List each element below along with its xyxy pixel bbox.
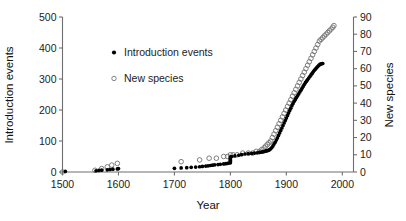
data-point-introduction-events [240,153,244,157]
data-point-introduction-events [321,62,325,66]
legend-label-introduction-events: Introduction events [124,46,213,58]
scatter-plot-canvas: 0100200300400500 0102030405060708090 150… [0,0,406,221]
data-point-introduction-events [173,166,177,170]
right-tick-label: 0 [360,166,366,178]
right-tick-label: 10 [360,148,372,160]
left-tick-label: 300 [39,73,57,85]
legend-label-new-species: New species [124,72,184,84]
data-point-introduction-events [179,166,183,170]
data-point-introduction-events [201,165,205,169]
data-point-introduction-events [218,162,222,166]
x-tick-label: 1800 [219,178,243,190]
left-tick-label: 500 [39,11,57,23]
data-point-introduction-events [213,163,217,167]
data-point-introduction-events [100,168,104,172]
right-tick-label: 20 [360,131,372,143]
data-point-introduction-events [189,166,193,170]
left-tick-label: 200 [39,104,57,116]
x-tick-label: 1600 [107,178,131,190]
right-tick-label: 30 [360,114,372,126]
x-axis-title: Year [196,199,219,211]
y-axis-left-title: Introduction events [3,46,15,143]
right-tick-label: 80 [360,28,372,40]
data-point-introduction-events [230,155,234,159]
right-tick-label: 40 [360,97,372,109]
data-point-introduction-events [185,166,189,170]
right-tick-label: 70 [360,45,372,57]
x-tick-label: 2000 [331,178,355,190]
legend-marker-introduction-events-icon [112,50,116,54]
right-tick-label: 60 [360,62,372,74]
right-tick-label: 50 [360,79,372,91]
right-tick-label: 90 [360,11,372,23]
data-point-introduction-events [243,152,247,156]
left-tick-label: 100 [39,135,57,147]
data-point-introduction-events [117,167,121,171]
data-point-introduction-events [111,167,115,171]
y-axis-right-title: New species [383,62,395,127]
x-tick-label: 1500 [51,178,75,190]
left-tick-label: 0 [51,166,57,178]
left-tick-label: 400 [39,42,57,54]
x-tick-label: 1900 [275,178,299,190]
data-point-introduction-events [63,170,67,174]
chart-figure: 0100200300400500 0102030405060708090 150… [0,0,406,221]
x-tick-label: 1700 [163,178,187,190]
data-point-introduction-events [246,152,250,156]
data-point-introduction-events [233,154,237,158]
data-point-introduction-events [194,165,198,169]
